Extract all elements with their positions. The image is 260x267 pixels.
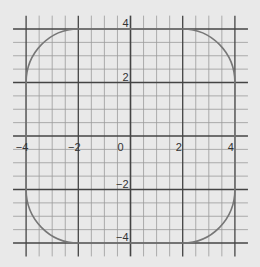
x-tick-label: 4: [228, 141, 234, 153]
x-tick-label: −2: [68, 141, 81, 153]
y-tick-label: 2: [122, 71, 128, 83]
plot-area: −4−2024 42−2−4: [0, 0, 260, 267]
x-tick-labels: −4−2024: [16, 141, 234, 153]
x-tick-label: 0: [117, 141, 123, 153]
y-tick-label: −2: [116, 178, 129, 190]
major-grid: [13, 16, 248, 257]
x-tick-label: −4: [16, 141, 29, 153]
y-tick-label: −4: [116, 231, 129, 243]
y-tick-label: 4: [122, 17, 128, 29]
x-tick-label: 2: [176, 141, 182, 153]
